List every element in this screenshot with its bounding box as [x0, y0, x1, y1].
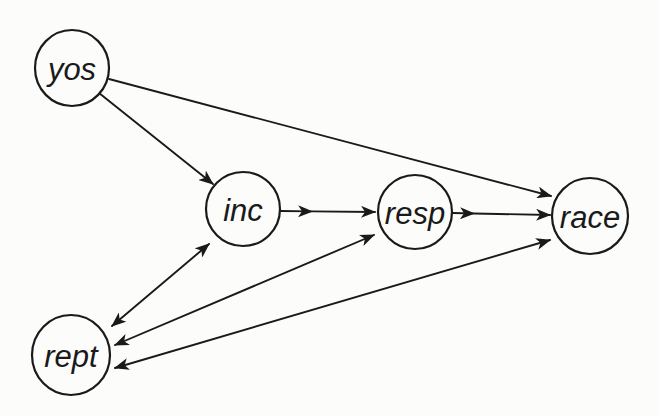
- edge-yos-inc: [99, 93, 213, 184]
- edge-yos-race: [109, 79, 551, 196]
- edge-inc-resp: [281, 211, 375, 212]
- edge-rept-inc: [112, 244, 209, 326]
- inc-label: inc: [223, 193, 263, 228]
- resp-label: resp: [385, 196, 445, 231]
- node-resp: resp: [378, 175, 452, 249]
- node-inc: inc: [206, 172, 280, 246]
- edge-rept-race: [115, 240, 550, 368]
- diagram-canvas: yosincrespracerept: [0, 0, 658, 416]
- rept-label: rept: [44, 339, 99, 374]
- node-yos: yos: [35, 30, 109, 106]
- edge-layer: [99, 79, 551, 368]
- scanned-figure: yosincrespracerept: [0, 0, 658, 416]
- yos-label: yos: [46, 52, 96, 87]
- race-label: race: [560, 200, 620, 235]
- node-rept: rept: [32, 315, 110, 395]
- node-race: race: [552, 178, 628, 254]
- edge-resp-race: [453, 213, 550, 215]
